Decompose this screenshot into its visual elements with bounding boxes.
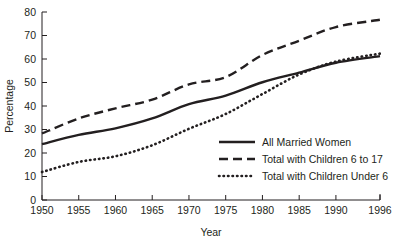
legend-label: Total with Children Under 6 (262, 170, 388, 182)
x-tick-label: 1985 (287, 204, 311, 216)
x-axis-tick-marks (42, 195, 380, 200)
y-tick-label: 60 (24, 53, 36, 65)
x-tick-label: 1975 (214, 204, 238, 216)
x-tick-label: 1990 (324, 204, 348, 216)
x-axis-title: Year (200, 226, 222, 238)
y-tick-label: 50 (24, 76, 36, 88)
y-axis-tick-labels: 01020304050607080 (24, 6, 36, 206)
y-tick-label: 80 (24, 6, 36, 18)
x-tick-label: 1965 (141, 204, 165, 216)
y-axis-title: Percentage (3, 79, 15, 133)
y-tick-label: 10 (24, 170, 36, 182)
x-tick-label: 1996 (368, 204, 392, 216)
data-series-group (42, 20, 380, 172)
y-tick-label: 30 (24, 123, 36, 135)
x-tick-label: 1960 (104, 204, 128, 216)
line-chart: 01020304050607080 1950195519601965197019… (0, 0, 396, 241)
y-tick-label: 70 (24, 29, 36, 41)
x-tick-label: 1970 (177, 204, 201, 216)
x-tick-label: 1980 (251, 204, 275, 216)
y-tick-label: 20 (24, 147, 36, 159)
chart-legend: All Married WomenTotal with Children 6 t… (219, 136, 388, 182)
x-axis-tick-labels: 1950195519601965197019751980198519901996 (30, 204, 392, 216)
series-line-dashed (42, 20, 380, 134)
legend-label: All Married Women (262, 136, 351, 148)
legend-label: Total with Children 6 to 17 (262, 153, 383, 165)
x-tick-label: 1950 (30, 204, 54, 216)
chart-canvas: 01020304050607080 1950195519601965197019… (0, 0, 396, 241)
series-line-solid (42, 56, 380, 144)
y-tick-label: 40 (24, 100, 36, 112)
x-tick-label: 1955 (67, 204, 91, 216)
